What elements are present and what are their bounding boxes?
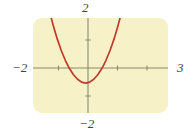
axis-label-y-min: −2 — [79, 117, 94, 130]
axis-label-x-min: −2 — [12, 61, 27, 74]
axis-label-y-max: 2 — [82, 1, 89, 14]
axis-label-x-max: 3 — [177, 61, 184, 74]
parabola-curve — [37, 18, 150, 83]
graph-figure: 2 −2 −2 3 — [0, 0, 196, 136]
plot-canvas — [33, 18, 168, 113]
